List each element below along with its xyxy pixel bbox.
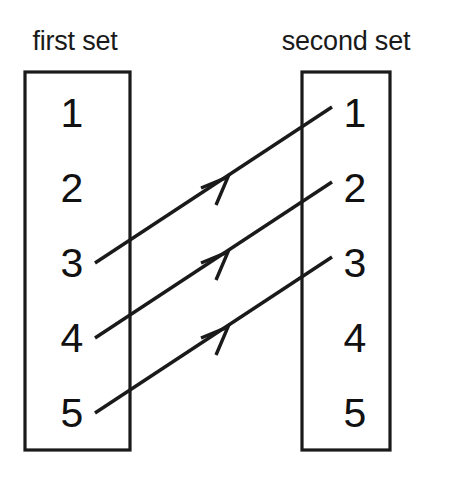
diagram-canvas: first set second set 1 2 3 4 5 1 2 3 4 5: [0, 0, 450, 481]
first-set-element-1: 1: [61, 90, 84, 136]
first-set-element-2: 2: [61, 165, 84, 211]
first-set-element-3: 3: [61, 240, 84, 286]
second-set-element-2: 2: [344, 165, 367, 211]
first-set-element-5: 5: [61, 390, 84, 436]
second-set-element-5: 5: [344, 390, 367, 436]
second-set-element-1: 1: [344, 90, 367, 136]
first-set-element-4: 4: [61, 315, 84, 361]
first-set-label: first set: [32, 26, 118, 56]
second-set-element-3: 3: [344, 240, 367, 286]
second-set-label: second set: [282, 26, 411, 56]
set-mapping-diagram: first set second set 1 2 3 4 5 1 2 3 4 5: [0, 0, 450, 481]
second-set-element-4: 4: [344, 315, 367, 361]
